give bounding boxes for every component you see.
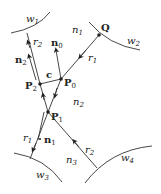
label-n3-region: n3	[66, 154, 77, 167]
point-P2	[38, 82, 42, 86]
label-r2-top: r2	[33, 36, 43, 49]
label-r1-top: r1	[88, 52, 97, 65]
point-P0	[59, 77, 63, 81]
label-r2-bottom: r2	[85, 144, 95, 157]
label-P0: P0	[64, 77, 76, 90]
label-w2: w2	[127, 35, 141, 48]
surface-w4	[85, 146, 152, 183]
label-Q: Q	[101, 22, 110, 33]
refraction-diagram: w1 w2 w3 w4 n1 n2 n3 Q P0 P1 P2 n0 n1 n2…	[0, 0, 161, 194]
ray-r2-bottom-arrow	[74, 141, 79, 147]
label-n2-region: n2	[73, 96, 84, 109]
ray-r1-bottom-arrow	[33, 143, 36, 150]
label-w1: w1	[26, 13, 39, 26]
normal-n0	[56, 50, 61, 79]
ray-P0-P1-arrow	[55, 88, 57, 96]
ray-P0-P1	[48, 79, 61, 112]
label-normal-n2: n2	[15, 54, 27, 67]
normal-n2	[29, 56, 36, 80]
label-c: c	[46, 69, 52, 80]
point-Q	[97, 33, 101, 37]
label-w3: w3	[36, 169, 50, 182]
ray-P1-P2-arrow	[43, 95, 44, 100]
point-P1	[46, 110, 50, 114]
label-n1-region: n1	[72, 24, 83, 37]
label-r1-bottom: r1	[23, 132, 32, 145]
label-normal-n0: n0	[51, 37, 63, 50]
label-w4: w4	[121, 152, 134, 165]
point-n1-foot	[39, 138, 41, 140]
label-P2: P2	[25, 80, 37, 93]
ray-r1-arrow	[80, 50, 86, 57]
label-normal-n1: n1	[44, 134, 56, 147]
